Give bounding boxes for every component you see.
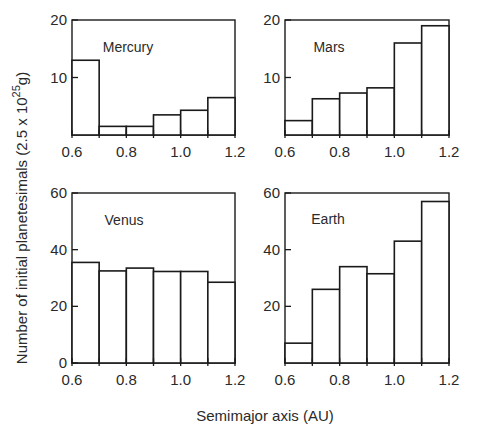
y-tick-label: 60: [50, 184, 67, 201]
y-axis-title: Number of initial planetesimals (2.5 x 1…: [10, 72, 30, 364]
y-tick-label: 10: [263, 69, 280, 86]
y-tick-label: 20: [50, 297, 67, 314]
histogram-bar: [394, 43, 421, 135]
histogram-bar: [285, 121, 312, 135]
panel-mars: 0.60.81.01.21020Mars: [263, 11, 459, 160]
histogram-bar: [208, 282, 235, 363]
panel-title: Venus: [105, 212, 144, 228]
x-tick-label: 0.6: [62, 143, 83, 160]
x-tick-label: 0.8: [329, 371, 350, 388]
histogram-bar: [181, 271, 208, 363]
x-tick-label: 0.8: [116, 143, 137, 160]
histogram-bar: [340, 93, 367, 135]
x-tick-label: 0.6: [62, 371, 83, 388]
y-axis-title-exponent: 25: [10, 85, 22, 97]
histogram-bar: [126, 268, 153, 363]
x-tick-label: 1.2: [439, 143, 460, 160]
histogram-bar: [312, 289, 339, 363]
y-axis-title-main: Number of initial planetesimals (2.5 x 1…: [13, 97, 30, 364]
y-tick-label: 40: [50, 241, 67, 258]
panel-title: Earth: [311, 211, 344, 227]
panel-title: Mars: [313, 39, 344, 55]
histogram-bar: [154, 271, 181, 363]
histogram-bar: [208, 98, 235, 135]
y-tick-label: 40: [263, 241, 280, 258]
histogram-bar: [285, 343, 312, 363]
x-tick-label: 0.6: [275, 143, 296, 160]
y-tick-label: 20: [263, 297, 280, 314]
histogram-bar: [181, 110, 208, 135]
histogram-bar: [367, 88, 394, 135]
histogram-bar: [422, 26, 449, 135]
x-tick-label: 1.2: [225, 143, 246, 160]
panel-title: Mercury: [103, 39, 154, 55]
panel-earth: 0.60.81.01.2204060Earth: [263, 184, 459, 388]
x-axis-title: Semimajor axis (AU): [196, 407, 334, 424]
histogram-bar: [99, 271, 126, 363]
panel-venus: 0.60.81.01.20204060Venus: [50, 184, 245, 388]
y-tick-label: 20: [50, 11, 67, 28]
y-tick-label: 60: [263, 184, 280, 201]
y-axis-title-tail: g): [13, 72, 30, 85]
x-tick-label: 0.6: [275, 371, 296, 388]
y-tick-label: 10: [50, 69, 67, 86]
histogram-bar: [312, 99, 339, 135]
y-tick-label: 0: [59, 354, 67, 371]
y-tick-label: 20: [263, 11, 280, 28]
x-tick-label: 1.0: [170, 143, 191, 160]
x-tick-label: 0.8: [116, 371, 137, 388]
x-tick-label: 1.0: [384, 143, 405, 160]
histogram-bar: [340, 267, 367, 363]
x-tick-label: 1.2: [225, 371, 246, 388]
histogram-bar: [154, 115, 181, 135]
histogram-bar: [394, 241, 421, 363]
x-tick-label: 0.8: [329, 143, 350, 160]
histogram-bar: [72, 60, 99, 135]
x-tick-label: 1.0: [170, 371, 191, 388]
histogram-bar: [367, 274, 394, 363]
x-tick-label: 1.2: [439, 371, 460, 388]
figure: 0.60.81.01.21020Mercury0.60.81.01.21020M…: [0, 0, 478, 435]
histogram-bar: [72, 262, 99, 363]
histogram-bar: [126, 126, 153, 135]
histogram-bar: [422, 202, 449, 364]
x-tick-label: 1.0: [384, 371, 405, 388]
panel-mercury: 0.60.81.01.21020Mercury: [50, 11, 245, 160]
histogram-bar: [99, 126, 126, 135]
